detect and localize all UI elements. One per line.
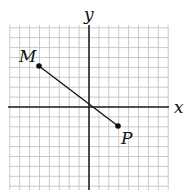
point-m [36,63,42,69]
y-axis-label: y [83,4,94,24]
point-p [115,123,121,129]
x-axis-label: x [174,97,184,117]
point-p-label: P [120,128,133,148]
point-m-label: M [18,46,37,66]
coordinate-plane: x y M P [0,0,190,194]
